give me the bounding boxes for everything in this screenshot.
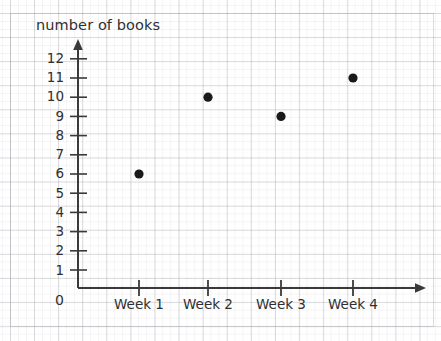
data-points [134, 73, 357, 178]
x-axis [78, 283, 426, 293]
data-point-week-2 [203, 93, 212, 102]
y-axis-arrow-icon [73, 39, 83, 50]
data-point-week-1 [134, 169, 143, 178]
chart-plot-area [0, 0, 441, 341]
x-axis-arrow-icon [415, 283, 426, 293]
chart-page: number of books 12 11 10 9 8 7 6 5 4 3 2… [0, 0, 441, 341]
data-point-week-3 [276, 112, 285, 121]
data-point-week-4 [348, 73, 357, 82]
